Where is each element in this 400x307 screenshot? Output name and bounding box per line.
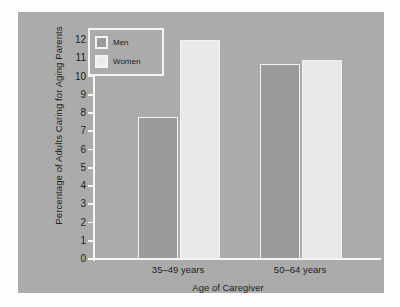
bar-men-0 bbox=[138, 117, 178, 259]
x-axis-title: Age of Caregiver bbox=[78, 282, 378, 293]
legend-label-women: Women bbox=[113, 57, 140, 66]
x-tick-label-1: 50–64 years bbox=[240, 264, 360, 275]
chart-panel: Percentage of Adults Caring for Aging Pa… bbox=[18, 12, 384, 293]
chart-legend: Men Women bbox=[88, 28, 164, 76]
bar-women-0 bbox=[180, 40, 220, 259]
bar-men-1 bbox=[260, 64, 300, 259]
legend-item-women: Women bbox=[95, 53, 140, 69]
legend-item-men: Men bbox=[95, 34, 129, 50]
legend-label-men: Men bbox=[113, 38, 129, 47]
legend-swatch-men-icon bbox=[95, 36, 108, 49]
chart-figure: Percentage of Adults Caring for Aging Pa… bbox=[0, 0, 400, 307]
plot-area: 0123456789101112 35–49 years50–64 years … bbox=[18, 12, 384, 293]
bar-series-group bbox=[18, 12, 384, 259]
legend-swatch-women-icon bbox=[95, 55, 108, 68]
x-tick-label-0: 35–49 years bbox=[118, 264, 238, 275]
bar-women-1 bbox=[302, 60, 342, 259]
